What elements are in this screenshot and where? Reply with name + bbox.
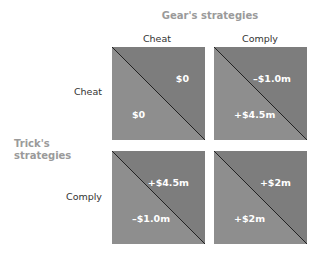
trick-payoff: $0 — [132, 109, 145, 120]
diagonal-split-shape — [112, 47, 205, 140]
payoff-cell-comply-comply: +$2m +$2m — [214, 151, 307, 244]
trick-strategies-title: Trick's strategies — [14, 138, 74, 162]
gear-payoff: $0 — [176, 73, 189, 84]
trick-payoff: +$4.5m — [234, 109, 275, 120]
row-header-comply: Comply — [42, 191, 102, 202]
col-header-comply: Comply — [214, 33, 306, 44]
payoff-cell-cheat-comply: –$1.0m +$4.5m — [214, 47, 307, 140]
trick-payoff: –$1.0m — [132, 213, 170, 224]
row-header-cheat: Cheat — [42, 86, 102, 97]
payoff-cell-cheat-cheat: $0 $0 — [112, 47, 205, 140]
payoff-cell-comply-cheat: +$4.5m –$1.0m — [112, 151, 205, 244]
gear-strategies-title: Gear's strategies — [160, 10, 260, 21]
col-header-cheat: Cheat — [111, 33, 203, 44]
gear-payoff: +$2m — [260, 177, 291, 188]
gear-payoff: –$1.0m — [253, 73, 291, 84]
gear-payoff: +$4.5m — [148, 177, 189, 188]
trick-payoff: +$2m — [234, 213, 265, 224]
diagonal-split-shape — [214, 151, 307, 244]
diagonal-split-shape — [214, 47, 307, 140]
diagonal-split-shape — [112, 151, 205, 244]
